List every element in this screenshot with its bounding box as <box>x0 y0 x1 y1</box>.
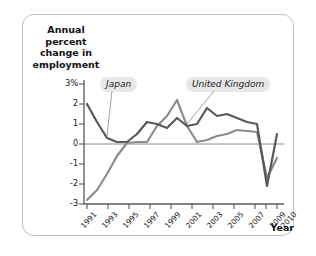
series-line-japan <box>87 104 277 186</box>
x-tick-marks <box>87 204 277 209</box>
callout-leader-japan <box>107 91 112 136</box>
series-line-united-kingdom <box>87 100 277 200</box>
y-tick-marks <box>79 84 84 204</box>
chart-figure: Annual percent change in employment Year… <box>0 0 316 256</box>
chart-plot-area <box>0 0 316 256</box>
